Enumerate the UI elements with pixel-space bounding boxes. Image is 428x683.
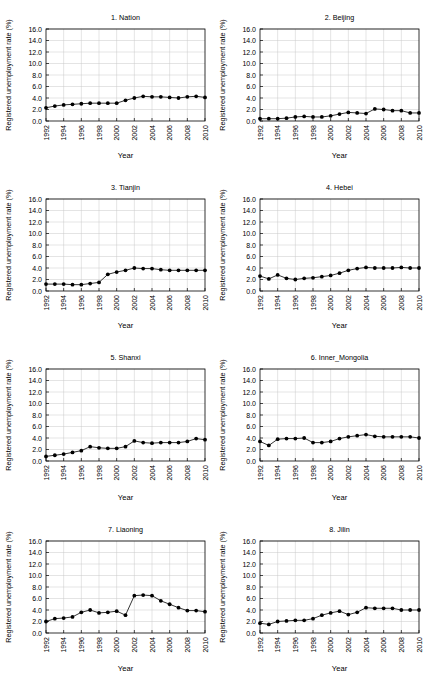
y-tick-label: 0.0 xyxy=(246,630,256,637)
y-tick-label: 2.0 xyxy=(246,446,256,453)
y-tick-label: 0.0 xyxy=(246,118,256,125)
data-point xyxy=(106,101,110,105)
data-point xyxy=(276,620,280,624)
x-tick-label: 2000 xyxy=(113,125,120,141)
data-point xyxy=(150,594,154,598)
data-point xyxy=(177,268,181,272)
y-tick-label: 2.0 xyxy=(246,276,256,283)
data-point xyxy=(168,96,172,100)
data-point xyxy=(194,268,198,272)
y-tick-label: 16.0 xyxy=(242,538,256,545)
data-point xyxy=(132,266,136,270)
y-tick-label: 6.0 xyxy=(32,595,42,602)
x-tick-label: 2000 xyxy=(327,465,334,481)
x-tick-label: 2008 xyxy=(398,465,405,481)
x-tick-label: 2002 xyxy=(131,125,138,141)
data-point xyxy=(364,112,368,116)
data-point xyxy=(168,602,172,606)
data-point xyxy=(97,280,101,284)
data-point xyxy=(373,434,377,438)
x-tick-label: 2002 xyxy=(345,125,352,141)
y-tick-label: 2.0 xyxy=(32,446,42,453)
data-point xyxy=(185,609,189,613)
x-tick-label: 1996 xyxy=(292,125,299,141)
data-point xyxy=(302,276,306,280)
x-axis-label: Year xyxy=(118,151,134,160)
y-tick-label: 10.0 xyxy=(242,60,256,67)
data-point xyxy=(338,609,342,613)
x-axis-label: Year xyxy=(332,664,348,673)
x-tick-label: 1992 xyxy=(257,637,264,653)
data-point xyxy=(53,104,57,108)
x-tick-label: 2006 xyxy=(166,637,173,653)
data-point xyxy=(285,437,289,441)
data-point xyxy=(346,613,350,617)
x-tick-label: 2004 xyxy=(363,465,370,481)
data-point xyxy=(311,115,315,119)
x-tick-label: 1996 xyxy=(78,637,85,653)
x-tick-label: 2008 xyxy=(184,465,191,481)
data-point xyxy=(194,437,198,441)
data-point xyxy=(97,101,101,105)
data-point xyxy=(391,266,395,270)
y-tick-label: 6.0 xyxy=(32,253,42,260)
data-point xyxy=(79,449,83,453)
y-tick-label: 4.0 xyxy=(246,95,256,102)
x-tick-label: 2010 xyxy=(416,637,423,653)
data-point xyxy=(150,441,154,445)
data-point xyxy=(267,622,271,626)
x-tick-label: 1994 xyxy=(274,637,281,653)
data-point xyxy=(62,282,66,286)
y-tick-label: 2.0 xyxy=(32,276,42,283)
x-tick-label: 2010 xyxy=(202,295,209,311)
data-point xyxy=(391,109,395,113)
chart-title: 3. Tianjin xyxy=(111,183,140,192)
y-tick-label: 2.0 xyxy=(32,618,42,625)
x-tick-label: 1992 xyxy=(257,295,264,311)
data-point xyxy=(258,274,262,278)
data-point xyxy=(71,283,75,287)
x-tick-label: 1998 xyxy=(96,637,103,653)
data-point xyxy=(132,96,136,100)
series-line xyxy=(46,595,205,621)
y-tick-label: 2.0 xyxy=(246,618,256,625)
data-point xyxy=(329,274,333,278)
y-tick-label: 4.0 xyxy=(32,265,42,272)
y-tick-label: 8.0 xyxy=(32,72,42,79)
data-point xyxy=(293,437,297,441)
x-tick-label: 1992 xyxy=(257,125,264,141)
x-tick-label: 2008 xyxy=(398,125,405,141)
data-point xyxy=(71,102,75,106)
data-point xyxy=(355,434,359,438)
x-tick-label: 1992 xyxy=(43,465,50,481)
chart-panel: 0.02.04.06.08.010.012.014.016.0199219941… xyxy=(214,512,428,683)
y-tick-label: 8.0 xyxy=(32,584,42,591)
x-tick-label: 2004 xyxy=(149,637,156,653)
data-point xyxy=(62,103,66,107)
data-point xyxy=(203,96,207,100)
data-point xyxy=(53,617,57,621)
data-point xyxy=(159,599,163,603)
data-point xyxy=(276,273,280,277)
data-point xyxy=(355,111,359,115)
x-tick-label: 2008 xyxy=(398,295,405,311)
chart-panel: 0.02.04.06.08.010.012.014.016.0199219941… xyxy=(0,340,214,512)
data-point xyxy=(124,445,128,449)
y-tick-label: 8.0 xyxy=(246,412,256,419)
data-point xyxy=(285,619,289,623)
data-point xyxy=(329,114,333,118)
data-point xyxy=(311,441,315,445)
chart-title: 2. Beijing xyxy=(325,13,355,22)
chart-title: 6. Inner_Mongolia xyxy=(311,353,369,362)
x-tick-label: 2004 xyxy=(363,125,370,141)
data-point xyxy=(346,110,350,114)
data-point xyxy=(276,117,280,121)
x-tick-label: 2004 xyxy=(363,637,370,653)
data-point xyxy=(71,615,75,619)
data-point xyxy=(177,441,181,445)
x-tick-label: 2002 xyxy=(345,637,352,653)
y-tick-label: 4.0 xyxy=(246,265,256,272)
data-point xyxy=(106,272,110,276)
data-point xyxy=(44,455,48,459)
data-point xyxy=(293,618,297,622)
